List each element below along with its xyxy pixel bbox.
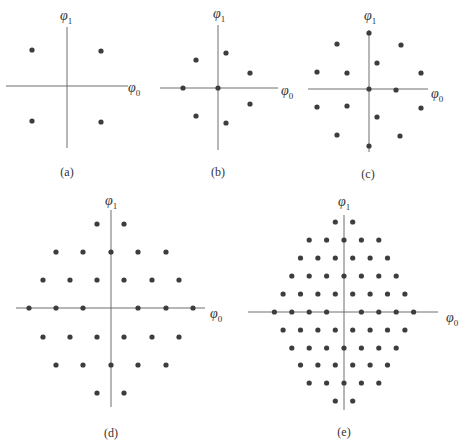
constellation-point	[272, 309, 277, 314]
constellation-point	[80, 305, 85, 310]
constellation-point	[418, 105, 423, 110]
constellation-point	[333, 327, 338, 332]
constellation-point	[350, 327, 355, 332]
constellation-point	[281, 327, 286, 332]
constellation-point	[289, 345, 294, 350]
constellation-point	[67, 277, 72, 282]
constellation-point	[149, 334, 154, 339]
phi1-axis-label: φ1	[60, 8, 72, 26]
constellation-figure: φ1φ0(a) φ1φ0(b) φ1φ0(c) φ1φ0(d) φ1φ0(e)	[0, 0, 461, 448]
constellation-point	[333, 219, 338, 224]
constellation-point	[307, 273, 312, 278]
constellation-point	[324, 309, 329, 314]
constellation-point	[344, 103, 349, 108]
constellation-point	[368, 362, 373, 367]
constellation-point	[53, 305, 58, 310]
constellation-point	[333, 362, 338, 367]
constellation-point	[80, 249, 85, 254]
constellation-point	[176, 277, 181, 282]
constellation-point	[385, 291, 390, 296]
phi0-axis-label: φ0	[281, 83, 294, 101]
phi0-axis-label: φ0	[446, 310, 459, 328]
constellation-point	[368, 291, 373, 296]
constellation-point	[176, 334, 181, 339]
constellation-point	[341, 345, 346, 350]
constellation-point	[98, 119, 103, 124]
constellation-point	[324, 273, 329, 278]
constellation-point	[341, 237, 346, 242]
panel-e-constellation: φ1φ0(e)	[248, 194, 459, 439]
constellation-point	[397, 133, 402, 138]
constellation-point	[376, 380, 381, 385]
constellation-point	[53, 362, 58, 367]
constellation-point	[394, 309, 399, 314]
constellation-point	[247, 70, 252, 75]
constellation-point	[393, 87, 398, 92]
constellation-point	[223, 50, 228, 55]
constellation-point	[67, 334, 72, 339]
constellation-point	[359, 273, 364, 278]
constellation-point	[366, 143, 371, 148]
constellation-point	[314, 104, 319, 109]
constellation-point	[29, 118, 34, 123]
constellation-point	[40, 334, 45, 339]
constellation-point	[385, 255, 390, 260]
constellation-point	[385, 362, 390, 367]
constellation-point	[368, 327, 373, 332]
constellation-point	[289, 273, 294, 278]
constellation-point	[121, 334, 126, 339]
constellation-point	[307, 345, 312, 350]
constellation-point	[359, 309, 364, 314]
constellation-point	[314, 69, 319, 74]
constellation-point	[247, 101, 252, 106]
constellation-point	[376, 345, 381, 350]
constellation-point	[121, 221, 126, 226]
constellation-point	[307, 380, 312, 385]
panel-caption: (b)	[211, 165, 225, 179]
constellation-point	[324, 237, 329, 242]
constellation-point	[333, 255, 338, 260]
phi1-axis-label: φ1	[105, 193, 117, 211]
constellation-point	[298, 255, 303, 260]
constellation-point	[289, 309, 294, 314]
constellation-point	[26, 305, 31, 310]
constellation-point	[359, 237, 364, 242]
constellation-point	[108, 249, 113, 254]
phi1-axis-label: φ1	[338, 194, 350, 212]
constellation-point	[215, 85, 220, 90]
constellation-point	[163, 249, 168, 254]
constellation-point	[333, 291, 338, 296]
constellation-point	[324, 380, 329, 385]
constellation-point	[94, 221, 99, 226]
phi1-axis-label: φ1	[364, 8, 376, 26]
constellation-point	[29, 47, 34, 52]
constellation-point	[334, 41, 339, 46]
constellation-point	[366, 30, 371, 35]
constellation-point	[190, 305, 195, 310]
constellation-point	[135, 305, 140, 310]
constellation-point	[394, 345, 399, 350]
constellation-point	[374, 114, 379, 119]
constellation-point	[40, 277, 45, 282]
constellation-point	[149, 277, 154, 282]
panel-caption: (c)	[361, 167, 374, 181]
constellation-point	[163, 362, 168, 367]
panel-c-constellation: φ1φ0(c)	[308, 8, 444, 181]
constellation-point	[223, 120, 228, 125]
constellation-point	[368, 255, 373, 260]
constellation-point	[121, 390, 126, 395]
constellation-point	[315, 362, 320, 367]
constellation-point	[163, 305, 168, 310]
constellation-point	[376, 237, 381, 242]
constellation-point	[350, 219, 355, 224]
constellation-point	[402, 327, 407, 332]
constellation-point	[193, 57, 198, 62]
constellation-point	[324, 345, 329, 350]
constellation-point	[180, 85, 185, 90]
panel-d-constellation: φ1φ0(d)	[16, 193, 223, 440]
constellation-point	[385, 327, 390, 332]
constellation-point	[135, 362, 140, 367]
constellation-point	[121, 277, 126, 282]
constellation-point	[98, 48, 103, 53]
constellation-point	[315, 327, 320, 332]
